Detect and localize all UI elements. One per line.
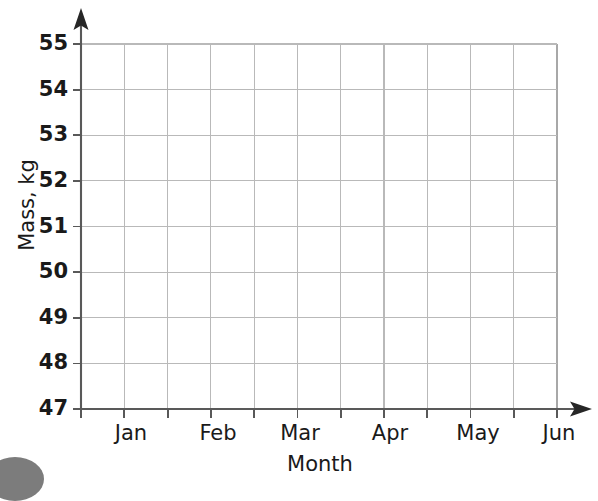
- x-axis-title: Month: [287, 452, 353, 476]
- y-tick-label: 50: [39, 259, 68, 283]
- y-tick-label: 53: [39, 122, 68, 146]
- y-tick-label: 51: [39, 214, 68, 238]
- y-tick-labels: 55 54 53 52 51 50 49 48 47: [39, 31, 68, 420]
- x-axis: [81, 402, 592, 417]
- x-tick-labels: Jan Feb Mar Apr May Jun: [113, 421, 576, 445]
- y-tick-label: 47: [39, 396, 68, 420]
- x-tick-label-apr: Apr: [372, 421, 409, 445]
- x-tick-label-feb: Feb: [199, 421, 236, 445]
- horizontal-gridlines: [81, 44, 557, 363]
- x-tick-marks: [81, 409, 557, 418]
- x-tick-label-jan: Jan: [113, 421, 147, 445]
- x-tick-label-mar: Mar: [280, 421, 320, 445]
- y-tick-label: 52: [39, 168, 68, 192]
- y-tick-label: 49: [39, 305, 68, 329]
- y-axis: [74, 8, 89, 409]
- x-tick-label-jun: Jun: [541, 421, 576, 445]
- y-tick-marks: [73, 44, 81, 409]
- y-tick-label: 55: [39, 31, 68, 55]
- y-tick-label: 54: [39, 77, 68, 101]
- x-tick-label-may: May: [456, 421, 499, 445]
- y-tick-label: 48: [39, 350, 68, 374]
- y-axis-title: Mass, kg: [15, 159, 39, 251]
